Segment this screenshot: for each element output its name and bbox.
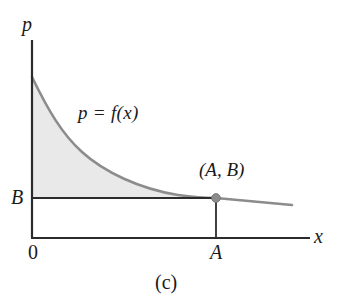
x-axis-label: x xyxy=(314,226,323,246)
figure-caption: (c) xyxy=(155,272,177,292)
plot-area xyxy=(0,0,344,303)
origin-tick-label: 0 xyxy=(28,242,38,262)
curve-equation-label: p = f(x) xyxy=(78,103,139,122)
x-tick-label-a: A xyxy=(210,242,222,262)
y-axis-label: p xyxy=(22,14,32,34)
equilibrium-point-marker xyxy=(212,194,221,203)
point-coordinate-label: (A, B) xyxy=(199,160,244,179)
figure-container: p x p = f(x) (A, B) B 0 A (c) xyxy=(0,0,344,303)
y-tick-label-b: B xyxy=(11,187,23,207)
